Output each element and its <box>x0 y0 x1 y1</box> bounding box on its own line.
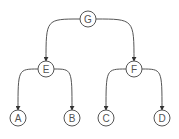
nodes: GEFABCD <box>10 11 170 126</box>
node-label: E <box>43 64 50 75</box>
node-label: F <box>131 64 137 75</box>
edge-G-F <box>96 19 134 61</box>
edge-F-D <box>142 69 162 110</box>
node-G: G <box>80 11 96 27</box>
edge-E-B <box>54 69 72 110</box>
edge-E-A <box>18 69 38 110</box>
node-E: E <box>38 61 54 77</box>
node-D: D <box>154 110 170 126</box>
edge-F-C <box>106 69 126 110</box>
edge-G-E <box>46 19 80 61</box>
node-label: C <box>102 113 109 124</box>
node-label: G <box>84 14 92 25</box>
node-F: F <box>126 61 142 77</box>
node-label: A <box>15 113 22 124</box>
node-label: D <box>158 113 165 124</box>
node-C: C <box>98 110 114 126</box>
node-A: A <box>10 110 26 126</box>
node-label: B <box>69 113 76 124</box>
tree-diagram: GEFABCD <box>0 0 179 139</box>
node-B: B <box>64 110 80 126</box>
